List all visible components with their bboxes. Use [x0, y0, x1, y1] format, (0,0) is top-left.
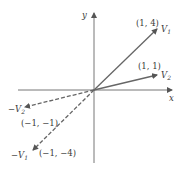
diagram-canvas: x y (1, 4) V1 (1, 1) V2 −V2 (−1, −1) −V1…: [0, 0, 184, 176]
neg-v1-label: −V1: [11, 150, 28, 161]
vector-v2: [94, 75, 157, 90]
neg-v2-label: −V2: [8, 104, 25, 115]
vector-v1: [94, 29, 157, 90]
v1-point-label: (1, 4): [136, 18, 159, 28]
neg-v1-point-label: (−1, −4): [39, 148, 76, 158]
neg-v2-point-label: (−1, −1): [21, 118, 58, 128]
vector-neg-v2: [25, 90, 94, 107]
v2-point-label: (1, 1): [138, 61, 161, 71]
vector-diagram: x y (1, 4) V1 (1, 1) V2 −V2 (−1, −1) −V1…: [0, 0, 184, 176]
v2-label: V2: [161, 70, 171, 81]
x-axis-label: x: [169, 93, 174, 103]
y-axis-label: y: [81, 10, 87, 20]
v1-label: V1: [161, 24, 171, 35]
